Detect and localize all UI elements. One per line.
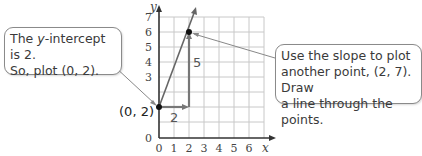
point-label: (0, 2) (119, 104, 154, 119)
x-tick: 5 (231, 142, 238, 155)
x-tick: 4 (216, 142, 223, 155)
callout-line: The y-intercept is 2. (10, 31, 116, 63)
x-tick: 2 (186, 142, 193, 155)
callout-line: So, plot (0, 2). (10, 63, 116, 79)
y-tick: 3 (145, 71, 152, 84)
line-arrowhead-icon (191, 7, 197, 15)
x-tick: 0 (156, 142, 163, 155)
callout-slope: Use the slope to plot another point, (2,… (275, 44, 422, 104)
run-label: 2 (170, 110, 178, 125)
y-tick: 4 (145, 56, 152, 69)
rise-label: 5 (193, 55, 201, 70)
y-tick: 0 (145, 132, 152, 145)
callout-line: a line through the points. (281, 96, 416, 128)
x-tick: 3 (201, 142, 208, 155)
y-tick: 6 (145, 26, 152, 39)
x-tick: 6 (246, 142, 253, 155)
y-axis-label: y (149, 0, 157, 14)
callout-line: another point, (2, 7). Draw (281, 64, 416, 96)
callout-y-intercept: The y-intercept is 2. So, plot (0, 2). (4, 27, 122, 75)
x-tick: 1 (171, 142, 178, 155)
point-2-7 (186, 29, 192, 35)
point-0-2 (156, 104, 162, 110)
y-axis-arrow-icon (156, 5, 162, 12)
callout-line: Use the slope to plot (281, 48, 416, 64)
x-axis-arrow-icon (269, 135, 276, 141)
x-axis-label: x (262, 141, 269, 155)
y-tick: 5 (145, 41, 152, 54)
leader-arrow-right-icon (192, 33, 199, 37)
